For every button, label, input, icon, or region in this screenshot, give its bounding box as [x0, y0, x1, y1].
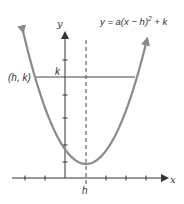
parabola-diagram: y x k h (h, k) y = a(x − h)2 + k: [0, 0, 184, 204]
equation-suffix: + k: [152, 16, 169, 27]
y-axis-label: y: [56, 18, 63, 29]
vertex-point-label: (h, k): [8, 72, 31, 83]
h-label: h: [82, 185, 88, 196]
equation-prefix: y = a(x − h): [99, 16, 148, 27]
parabola-curve: [23, 31, 147, 164]
k-label: k: [55, 66, 61, 77]
equation-label: y = a(x − h)2 + k: [99, 15, 169, 27]
x-axis-label: x: [170, 174, 176, 185]
svg-text:y = a(x − h)2 + k: y = a(x − h)2 + k: [99, 15, 169, 27]
